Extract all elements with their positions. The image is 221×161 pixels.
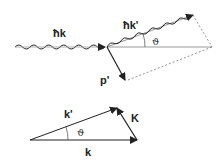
dashed-line-lower xyxy=(128,47,212,80)
k-label: k xyxy=(85,146,92,158)
scattering-diagram: ħk ħk' ϑ p' xyxy=(15,15,212,86)
dashed-line-upper xyxy=(193,15,212,47)
electron-label: p' xyxy=(100,74,110,86)
scattered-label: ħk' xyxy=(123,19,139,31)
vector-triangle: k' K ϑ k xyxy=(30,108,139,158)
K-label: K xyxy=(131,112,139,124)
compton-diagram: ħk ħk' ϑ p' k' K ϑ k xyxy=(0,0,221,161)
angle-arc-top xyxy=(143,34,145,47)
incident-label: ħk xyxy=(53,27,67,39)
electron-momentum-arrow xyxy=(107,47,125,80)
angle-label-bottom: ϑ xyxy=(77,127,84,138)
angle-arc-bottom xyxy=(66,127,68,140)
kprime-vector xyxy=(30,108,117,140)
angle-label-top: ϑ xyxy=(152,36,159,47)
kprime-label: k' xyxy=(64,108,73,120)
